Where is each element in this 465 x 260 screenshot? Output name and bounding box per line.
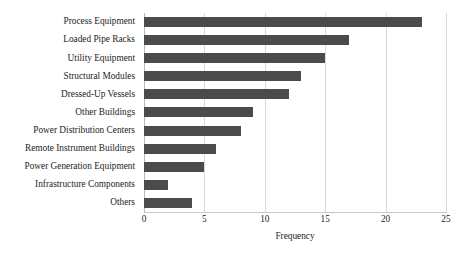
- category-label: Utility Equipment: [0, 49, 140, 67]
- category-axis-labels: Process EquipmentLoaded Pipe RacksUtilit…: [0, 13, 140, 212]
- x-tick-label: 0: [142, 215, 147, 224]
- gridline-25: [446, 13, 447, 212]
- category-label: Loaded Pipe Racks: [0, 31, 140, 49]
- bar-row: [144, 85, 446, 103]
- bar: [144, 53, 325, 63]
- bar: [144, 107, 253, 117]
- plot-area: [144, 13, 446, 212]
- bar: [144, 180, 168, 190]
- bar: [144, 89, 289, 99]
- bar-row: [144, 122, 446, 140]
- x-axis-title: Frequency: [144, 232, 446, 241]
- category-label: Process Equipment: [0, 13, 140, 31]
- bar: [144, 162, 204, 172]
- x-axis-tick-labels: 0510152025: [144, 215, 446, 229]
- bar-rows: [144, 13, 446, 212]
- bar-row: [144, 49, 446, 67]
- category-label: Power Distribution Centers: [0, 122, 140, 140]
- x-axis-line: [144, 212, 447, 213]
- category-label: Power Generation Equipment: [0, 158, 140, 176]
- bar: [144, 198, 192, 208]
- bar: [144, 17, 422, 27]
- bar-row: [144, 103, 446, 121]
- bar-row: [144, 176, 446, 194]
- x-tick-label: 15: [321, 215, 330, 224]
- x-tick-label: 5: [202, 215, 207, 224]
- x-tick-label: 25: [441, 215, 450, 224]
- bar: [144, 71, 301, 81]
- bar: [144, 35, 349, 45]
- bar-row: [144, 194, 446, 212]
- category-label: Remote Instrument Buildings: [0, 140, 140, 158]
- frequency-bar-chart: Process EquipmentLoaded Pipe RacksUtilit…: [0, 0, 465, 260]
- bar-row: [144, 158, 446, 176]
- category-label: Infrastructure Components: [0, 176, 140, 194]
- bar-row: [144, 31, 446, 49]
- category-label: Other Buildings: [0, 103, 140, 121]
- bar-row: [144, 67, 446, 85]
- category-label: Others: [0, 194, 140, 212]
- x-tick-label: 20: [381, 215, 390, 224]
- x-tick-label: 10: [260, 215, 269, 224]
- category-label: Dressed-Up Vessels: [0, 85, 140, 103]
- bar-row: [144, 140, 446, 158]
- bar-row: [144, 13, 446, 31]
- bar: [144, 126, 241, 136]
- category-label: Structural Modules: [0, 67, 140, 85]
- bar: [144, 144, 216, 154]
